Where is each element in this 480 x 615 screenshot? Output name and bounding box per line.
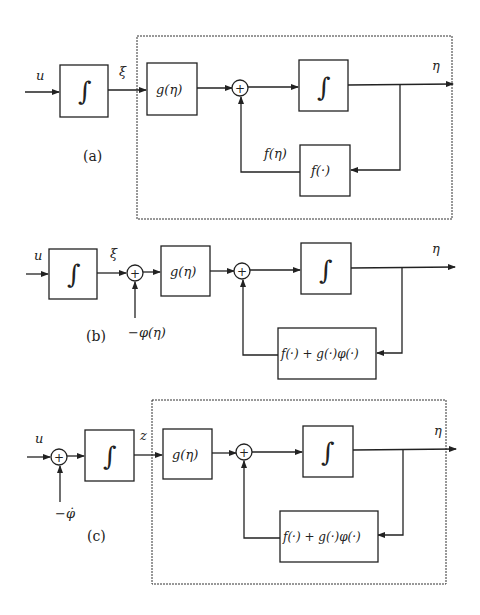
integrator-symbol: ∫ — [103, 441, 117, 471]
input-label: u — [36, 68, 44, 83]
input-label: u — [35, 431, 43, 446]
panel-a: u ∫ ξ g(η) + ∫ η f(·) f(η) (a) — [25, 36, 453, 219]
output-label: η — [432, 241, 440, 256]
output-arrow — [348, 84, 453, 85]
panel-caption: (c) — [87, 528, 106, 544]
panel-c: u + −φ̇ ∫ z g(η) + ∫ η f(·) + g(·)φ(·) (… — [27, 400, 456, 584]
gain-block-label: g(η) — [156, 82, 182, 97]
phi-dot-input-label: −φ̇ — [55, 506, 76, 521]
integrator-symbol: ∫ — [317, 72, 331, 102]
svg-text:+: + — [130, 267, 140, 281]
integrator-symbol: ∫ — [67, 259, 81, 289]
xi-label: ξ — [110, 246, 118, 261]
feedback-block-label: f(·) + g(·)φ(·) — [280, 347, 359, 361]
svg-text:+: + — [237, 265, 247, 279]
output-arrow — [351, 267, 455, 268]
svg-text:+: + — [54, 451, 64, 465]
svg-text:+: + — [239, 446, 249, 460]
input-label: u — [34, 248, 42, 263]
feedback-block-label: f(·) — [310, 163, 330, 178]
phi-input-label: −φ(η) — [128, 325, 166, 340]
output-label: η — [434, 423, 442, 438]
feedback-block-label: f(·) + g(·)φ(·) — [282, 530, 361, 544]
panel-caption: (b) — [86, 328, 106, 344]
integrator-symbol: ∫ — [321, 437, 335, 467]
svg-text:+: + — [235, 82, 245, 96]
output-label: η — [432, 58, 440, 73]
xi-label: ξ — [119, 64, 127, 79]
output-arrow — [353, 449, 456, 450]
feedback-signal-label: f(η) — [263, 146, 287, 161]
panel-caption: (a) — [83, 148, 102, 164]
integrator-symbol: ∫ — [78, 76, 92, 106]
gain-block-label: g(η) — [170, 264, 196, 279]
gain-block-label: g(η) — [172, 447, 198, 462]
integrator-symbol: ∫ — [319, 255, 333, 285]
z-label: z — [139, 428, 147, 443]
panel-b: u ∫ ξ + −φ(η) g(η) + ∫ η f(·) + g(·)φ(·)… — [26, 241, 455, 379]
